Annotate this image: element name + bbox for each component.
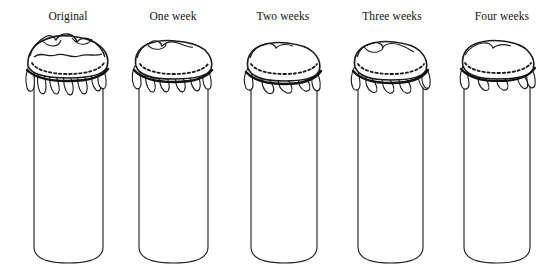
panel-label-one-week: One week (149, 10, 196, 23)
figure-canvas: Original One week Two weeks Three weeks … (0, 0, 560, 278)
jar-panel-three-weeks (351, 41, 430, 263)
jar-panel-one-week (132, 40, 212, 263)
jar-panel-four-weeks (460, 40, 535, 263)
jar-panel-original (26, 34, 108, 263)
jar-body-outline (358, 72, 423, 263)
jar-body-outline (251, 72, 317, 263)
panel-label-four-weeks: Four weeks (475, 10, 529, 23)
jar-body-outline (464, 72, 530, 263)
panel-label-two-weeks: Two weeks (257, 10, 310, 23)
jar-series-drawing (0, 0, 560, 278)
jar-panel-two-weeks (244, 42, 321, 263)
panel-label-three-weeks: Three weeks (362, 10, 422, 23)
cloth-dome (28, 36, 108, 78)
jar-body-outline (34, 72, 103, 263)
cloth-dome (248, 42, 320, 81)
jar-body-outline (139, 72, 208, 263)
panel-label-original: Original (48, 10, 87, 23)
